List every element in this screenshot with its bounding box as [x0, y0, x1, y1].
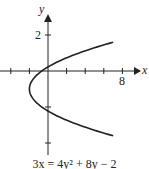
y-axis-arrow-icon: [44, 14, 52, 22]
y-tick-label-2: 2: [35, 29, 41, 41]
parabola-curve: [29, 42, 113, 136]
x-axis-label: x: [142, 64, 147, 76]
equation-caption: 3x = 4y² + 8y − 2: [0, 157, 149, 169]
x-axis-arrow-icon: [134, 67, 141, 75]
x-tick-label-8: 8: [119, 75, 125, 87]
axis-ticks: [11, 35, 123, 169]
y-axis-label: y: [39, 3, 44, 15]
parabola-chart: [0, 0, 149, 169]
